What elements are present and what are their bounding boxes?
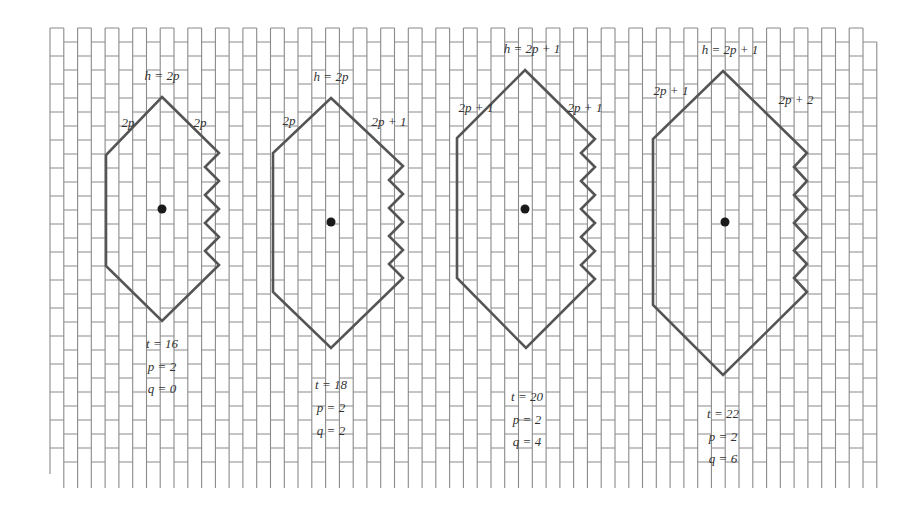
left-side-label: 2p bbox=[283, 113, 297, 128]
right-side-label: 2p + 2 bbox=[779, 92, 814, 107]
param-q-label: q = 2 bbox=[317, 423, 346, 438]
height-label: h = 2p bbox=[145, 68, 180, 83]
param-t-label: t = 16 bbox=[146, 336, 178, 351]
center-dot bbox=[158, 205, 167, 214]
right-side-label: 2p + 1 bbox=[568, 100, 603, 115]
param-p-label: p = 2 bbox=[708, 429, 738, 444]
right-side-label: 2p + 1 bbox=[372, 114, 407, 129]
param-q-label: q = 6 bbox=[709, 451, 738, 466]
left-side-label: 2p bbox=[122, 115, 136, 130]
right-side-label: 2p bbox=[194, 115, 208, 130]
param-p-label: p = 2 bbox=[147, 359, 177, 374]
param-p-label: p = 2 bbox=[316, 400, 346, 415]
diagram-canvas: h = 2p2p2pt = 16p = 2q = 0h = 2p2p2p + 1… bbox=[0, 0, 921, 513]
param-t-label: t = 20 bbox=[511, 389, 543, 404]
center-dot bbox=[721, 218, 730, 227]
param-q-label: q = 4 bbox=[513, 434, 542, 449]
center-dot bbox=[327, 218, 336, 227]
param-p-label: p = 2 bbox=[512, 412, 542, 427]
hexagon-outline bbox=[273, 98, 403, 348]
param-t-label: t = 18 bbox=[315, 377, 347, 392]
brick-lines bbox=[50, 28, 877, 488]
hexagon-4 bbox=[653, 71, 807, 375]
center-dot bbox=[521, 205, 530, 214]
height-label: h = 2p + 1 bbox=[504, 41, 561, 56]
hexagon-2 bbox=[273, 98, 403, 348]
height-label: h = 2p + 1 bbox=[702, 42, 759, 57]
hexagon-group: h = 2p2p2pt = 16p = 2q = 0h = 2p2p2p + 1… bbox=[106, 41, 814, 466]
param-t-label: t = 22 bbox=[707, 406, 739, 421]
brick-grid bbox=[50, 28, 877, 488]
param-q-label: q = 0 bbox=[148, 381, 177, 396]
left-side-label: 2p + 1 bbox=[459, 100, 494, 115]
hexagon-outline bbox=[653, 71, 807, 375]
brick-lattice-diagram: h = 2p2p2pt = 16p = 2q = 0h = 2p2p2p + 1… bbox=[0, 0, 921, 513]
height-label: h = 2p bbox=[314, 69, 349, 84]
left-side-label: 2p + 1 bbox=[654, 83, 689, 98]
